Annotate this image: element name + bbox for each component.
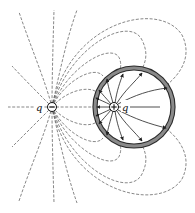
positive-charge xyxy=(110,103,119,112)
negative-charge-label: q xyxy=(36,102,42,113)
internal-field-lines xyxy=(96,73,167,141)
negative-charge xyxy=(48,103,57,112)
field-line-diagram: q q xyxy=(0,0,195,213)
positive-charge-label: q xyxy=(122,102,128,113)
